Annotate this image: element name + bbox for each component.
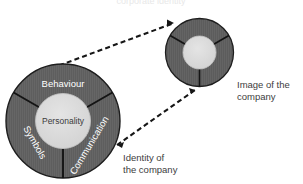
identity-caption-line-1: Identity of — [123, 152, 165, 163]
corporate-identity-image-diagram: corporate identity Image of the company — [0, 0, 303, 184]
cut-off-heading: corporate identity — [116, 0, 186, 6]
image-caption-line-2: company — [237, 91, 276, 102]
identity-wheel[interactable]: Behaviour Communication Symbols Personal… — [6, 64, 120, 178]
image-caption-line-1: Image of the — [237, 79, 290, 90]
identity-wheel-core-label: Personality — [42, 116, 85, 126]
image-wheel-core — [183, 36, 216, 69]
identity-segment-label-behaviour: Behaviour — [42, 78, 85, 89]
image-wheel[interactable] — [166, 19, 234, 87]
identity-caption-line-2: the company — [123, 164, 178, 175]
diagram-canvas: corporate identity Image of the company — [0, 0, 303, 184]
